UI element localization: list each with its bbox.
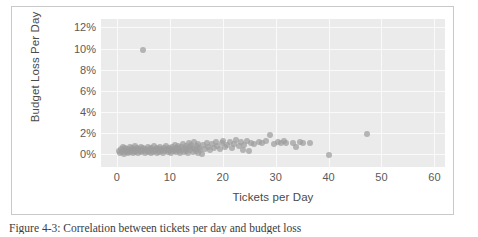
y-axis-tick-label: 6% [56,85,96,97]
scatter-point [199,151,205,157]
gridline-vertical [117,19,118,167]
x-axis-tick-label: 30 [270,171,282,183]
y-axis-tick-label: 10% [56,43,96,55]
x-axis-tick-label: 10 [164,171,176,183]
x-axis-tick-label: 20 [217,171,229,183]
figure-caption: Figure 4-3: Correlation between tickets … [9,222,469,234]
scatter-point [300,140,306,146]
x-axis-tick-label: 50 [375,171,387,183]
y-axis-tick-label: 8% [56,64,96,76]
y-axis-title: Budget Loss Per Day [29,0,41,142]
x-axis-tick-label: 60 [428,171,440,183]
gridline-vertical [381,19,382,167]
y-axis-tick-label: 0% [56,148,96,160]
scatter-point [263,138,269,144]
scatter-point [283,140,289,146]
x-axis-tick-label: 40 [322,171,334,183]
x-axis-tick-label: 0 [114,171,120,183]
gridline-vertical [329,19,330,167]
gridline-horizontal [101,49,445,50]
scatter-point [326,152,332,158]
x-axis-title: Tickets per Day [101,191,445,203]
figure-root: Budget Loss Per Day 0%2%4%6%8%10%12% 010… [0,0,478,237]
scatter-point [267,132,273,138]
y-axis-tick-label: 4% [56,106,96,118]
y-axis-tick-label: 12% [56,21,96,33]
y-axis-tick-labels: 0%2%4%6%8%10%12% [56,19,96,167]
gridline-horizontal [101,70,445,71]
x-axis-tick-labels: 0102030405060 [101,171,445,187]
plot-area [101,19,445,167]
scatter-point [293,144,299,150]
scatter-point [240,147,246,153]
scatter-point [307,140,313,146]
gridline-horizontal [101,112,445,113]
scatter-point [246,148,252,154]
scatter-point [140,47,146,53]
gridline-horizontal [101,133,445,134]
scatter-point [364,131,370,137]
gridline-horizontal [101,91,445,92]
y-axis-tick-label: 2% [56,127,96,139]
gridline-horizontal [101,27,445,28]
chart-frame: Budget Loss Per Day 0%2%4%6%8%10%12% 010… [11,6,454,215]
gridline-vertical [434,19,435,167]
